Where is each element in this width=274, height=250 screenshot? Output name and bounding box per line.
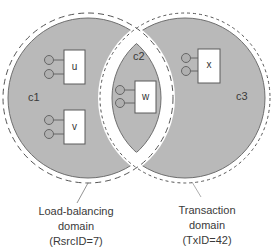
port-icon <box>182 67 191 76</box>
transaction-leader-line <box>192 182 201 197</box>
port-icon <box>45 70 54 79</box>
port-icon <box>116 99 125 108</box>
load-balancing-domain-caption: Load-balancing domain (RsrcID=7) <box>36 204 116 249</box>
node-label-w: w <box>135 91 156 102</box>
port-icon <box>45 130 54 139</box>
node-label-u: u <box>64 61 85 72</box>
port-icon <box>182 54 191 63</box>
transaction-domain-caption: Transaction domain (TxID=42) <box>172 203 242 248</box>
port-icon <box>116 86 125 95</box>
region-label-c3: c3 <box>236 91 248 102</box>
load-balancing-leader-line <box>77 183 88 203</box>
caption-line: (TxID=42) <box>172 233 242 248</box>
node-label-v: v <box>64 121 85 132</box>
caption-line: Load-balancing <box>36 204 116 219</box>
caption-line: domain <box>172 218 242 233</box>
region-label-c2: c2 <box>133 51 145 62</box>
region-label-c1: c1 <box>28 92 40 103</box>
caption-line: (RsrcID=7) <box>36 234 116 249</box>
caption-line: Transaction <box>172 203 242 218</box>
caption-line: domain <box>36 219 116 234</box>
port-icon <box>45 116 54 125</box>
node-label-x: x <box>198 59 220 70</box>
port-icon <box>45 56 54 65</box>
